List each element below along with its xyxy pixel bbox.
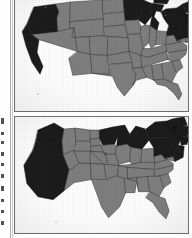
state-ohio	[156, 31, 167, 45]
cartogram-state-ohio	[141, 148, 155, 162]
state-nebraska	[104, 25, 128, 38]
conventional-us-map-svg	[15, 0, 188, 111]
cartogram-state-maine	[177, 117, 187, 127]
page-edge-mark-7	[1, 199, 4, 202]
page-edge-mark-8	[1, 210, 4, 213]
state-florida	[154, 79, 182, 100]
scan-speck-2	[45, 7, 46, 8]
page-edge-mark-0	[1, 118, 4, 124]
cartogram-state-north-dakota	[90, 130, 99, 139]
state-arizona	[69, 52, 93, 76]
population-cartogram-svg	[15, 117, 188, 233]
page-gutter	[0, 0, 14, 238]
cartogram-state-california	[24, 150, 69, 199]
state-iowa	[125, 20, 141, 35]
page-edge-mark-9	[1, 221, 4, 225]
cartogram-state-texas	[91, 176, 125, 218]
panel-population-cartogram	[14, 116, 189, 234]
scan-speck-1	[165, 15, 166, 16]
page-edge-mark-6	[1, 186, 4, 191]
scan-speck-0	[37, 93, 39, 95]
figure-root	[0, 0, 192, 238]
cartogram-state-wyoming	[75, 141, 91, 151]
page-edge-rule-inner	[12, 0, 13, 238]
page-edge-mark-4	[1, 163, 4, 166]
conventional-map-stage	[15, 0, 188, 111]
state-colorado	[90, 36, 109, 56]
panel-conventional-us-map	[14, 0, 189, 112]
scan-speck-5	[165, 217, 166, 218]
cartogram-state-indiana	[130, 147, 142, 164]
scan-speck-3	[55, 221, 57, 223]
page-edge-mark-1	[1, 132, 4, 135]
cartogram-state-south-dakota	[90, 138, 100, 146]
cartogram-state-rhode-island	[186, 136, 188, 142]
page-edge-mark-3	[1, 152, 4, 156]
cartogram-state-new-mexico	[90, 163, 106, 179]
page-edge-mark-5	[1, 174, 4, 178]
state-delaware	[186, 38, 188, 42]
state-montana	[70, 0, 104, 22]
scan-speck-4	[145, 129, 146, 130]
state-new-mexico	[91, 54, 110, 74]
cartogram-map-stage	[15, 117, 188, 233]
cartogram-state-florida	[146, 192, 169, 219]
page-edge-mark-2	[1, 141, 4, 144]
page-edge-rule-outer	[10, 0, 11, 238]
cartogram-state-montana	[75, 128, 90, 141]
state-north-dakota	[102, 0, 124, 14]
state-south-dakota	[103, 12, 125, 27]
